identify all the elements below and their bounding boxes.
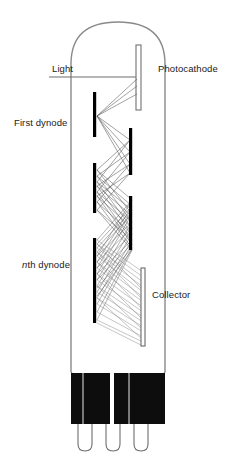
- electron-trajectories-collector: [97, 240, 143, 346]
- pin-3: [134, 424, 148, 451]
- electron-trajectories-stage1: [97, 79, 137, 116]
- dynode-2-electrode: [129, 128, 132, 175]
- electron-trajectories-stage3: [97, 140, 130, 210]
- base-block-right: [114, 373, 165, 424]
- label-collector: Collector: [152, 289, 190, 300]
- dynode-3-electrode: [93, 163, 96, 213]
- label-first-dynode: First dynode: [14, 117, 67, 128]
- photocathode-electrode: [136, 45, 141, 110]
- dynode-4-electrode: [129, 196, 132, 250]
- label-light: Light: [52, 63, 73, 74]
- label-nth-dynode: nth dynode: [22, 259, 70, 270]
- tube-envelope: [71, 22, 165, 372]
- label-nth-dynode-rest: th dynode: [27, 259, 70, 270]
- label-photocathode: Photocathode: [158, 63, 218, 74]
- pin-1: [78, 424, 92, 451]
- pin-2: [106, 424, 120, 451]
- first-dynode-electrode: [93, 92, 96, 137]
- base-block-left: [71, 373, 110, 424]
- nth-dynode-electrode: [93, 238, 96, 323]
- collector-electrode: [141, 268, 145, 346]
